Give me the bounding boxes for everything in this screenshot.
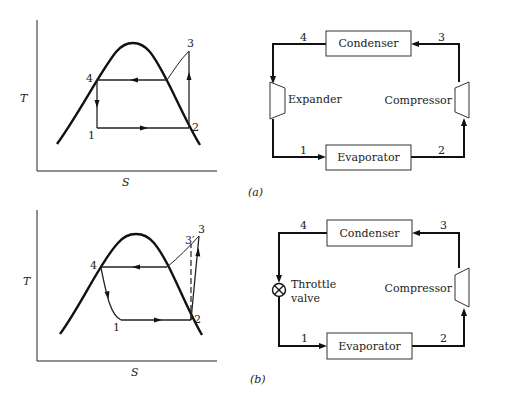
line-condenser-to-expander-a	[273, 44, 326, 80]
arrow-into-condenser-b	[412, 230, 420, 236]
arrow-into-compressor-a	[461, 118, 467, 126]
state-label-3prime-b: 3′	[185, 234, 195, 247]
arrow-into-evaporator-a	[318, 154, 326, 160]
line-condenser-to-throttle-b	[279, 233, 327, 277]
arrow-into-evaporator-b	[319, 343, 327, 349]
arrow-1-2-b	[154, 318, 162, 323]
condenser-label-b: Condenser	[339, 227, 400, 240]
node-label-3-a: 3	[438, 31, 445, 44]
expander-icon	[270, 82, 285, 119]
evaporator-label-b: Evaporator	[338, 340, 401, 353]
evaporator-label-a: Evaporator	[337, 151, 400, 164]
throttle-valve-label-line2: valve	[290, 292, 320, 305]
arrow-2-3-a	[187, 72, 192, 80]
s-axis-label-a: S	[122, 176, 130, 189]
arrow-into-throttle-b	[276, 275, 282, 283]
compressor-label-b: Compressor	[385, 282, 453, 295]
arrow-1-2-a	[140, 126, 148, 131]
throttle-valve-label-line1: Throttle	[291, 278, 336, 291]
t-axis-label-a: T	[20, 92, 29, 105]
schematic-b: Condenser Evaporator Throttle valve Comp…	[250, 219, 469, 386]
node-label-1-b: 1	[301, 332, 308, 345]
state-label-4-b: 4	[90, 259, 97, 272]
schematic-a: Condenser Evaporator Expander Compressor…	[248, 31, 469, 199]
process-2-3-b	[191, 236, 199, 320]
state-label-1-a: 1	[88, 129, 95, 142]
compressor-icon-a	[455, 82, 469, 118]
throttle-valve-icon	[273, 284, 286, 297]
state-label-2-a: 2	[192, 121, 199, 134]
state-label-3-a: 3	[187, 37, 194, 50]
arrow-4-1-b	[105, 291, 110, 299]
node-label-2-a: 2	[438, 144, 445, 157]
state-label-1-b: 1	[113, 321, 120, 334]
state-label-2-b: 2	[194, 313, 201, 326]
node-label-4-b: 4	[300, 219, 307, 232]
node-label-1-a: 1	[300, 144, 307, 157]
node-label-3-b: 3	[440, 219, 447, 232]
node-label-2-b: 2	[440, 332, 447, 345]
process-4-1-b	[101, 268, 121, 320]
compressor-icon-b	[455, 268, 469, 307]
panel-caption-b: (b)	[250, 373, 266, 386]
ts-diagram-a: T S 4 1 2 3	[20, 20, 217, 189]
node-label-4-a: 4	[300, 31, 307, 44]
expander-label: Expander	[288, 93, 342, 106]
ts-diagram-b: T S 4 1 2 3 3′	[23, 210, 217, 379]
arrow-into-condenser-a	[411, 41, 419, 47]
arrow-into-compressor-b	[461, 308, 467, 316]
s-axis-label-b: S	[131, 366, 139, 379]
compressor-label-a: Compressor	[385, 94, 453, 107]
line-compressor-to-condenser-a	[418, 44, 459, 82]
state-label-3-b: 3	[198, 223, 205, 236]
process-3-sat-a	[167, 51, 189, 80]
line-compressor-to-condenser-b	[419, 233, 459, 268]
arrow-3-4-a	[130, 78, 138, 83]
panel-caption-a: (a)	[248, 186, 263, 199]
condenser-label-a: Condenser	[338, 37, 399, 50]
line-evaporator-to-compressor-b	[412, 314, 464, 346]
saturation-dome-a	[57, 43, 200, 145]
arrow-3-4-b	[132, 265, 140, 270]
state-label-4-a: 4	[86, 72, 93, 85]
line-expander-to-evaporator-a	[273, 119, 320, 157]
arrow-4-1-a	[95, 100, 100, 108]
t-axis-label-b: T	[23, 275, 32, 288]
